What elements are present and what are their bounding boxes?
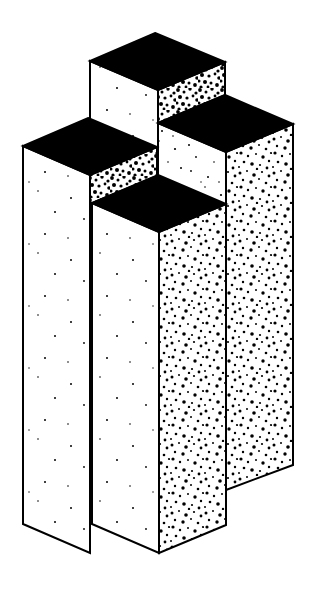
isometric-columns-drawing: Isometric column cluster illustration Bl… <box>0 0 316 590</box>
figure-canvas: Isometric column cluster illustration Bl… <box>0 0 316 590</box>
column-front-middle-right-face <box>159 204 226 553</box>
column-front-middle <box>92 175 226 553</box>
column-left-left-face <box>23 146 90 553</box>
column-right-right-face <box>226 124 293 490</box>
column-front-middle-left-face <box>92 203 159 553</box>
